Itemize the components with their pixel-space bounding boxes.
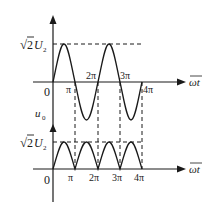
bottom-peak-label: √ 2 U 2 [20,135,47,152]
y-axis-arrow-bottom [50,124,57,132]
svg-text:ωt: ωt [189,76,201,88]
bottom-tick-2pi: 2π [89,172,99,183]
bottom-tick-3pi: 3π [112,172,122,183]
top-peak-label: √ 2 U 2 [20,37,47,54]
top-tick-2pi: 2π [86,70,96,81]
svg-text:ωt: ωt [189,163,201,175]
svg-text:2: 2 [43,46,47,54]
top-tick-3pi: 3π [120,70,130,81]
bottom-tick-4pi: 4π [134,172,144,183]
bottom-x-axis-arrow [177,166,186,173]
bottom-y-axis-label: u 0 [35,107,46,122]
y-axis-arrow-top [50,15,57,24]
svg-text:0: 0 [42,114,46,122]
rectifier-waveform-diagram: √ 2 U 2 0 π 2π 3π 4π ωt u 0 √ 2 U 2 0 π … [0,0,215,213]
svg-text:u: u [35,107,41,119]
svg-text:2: 2 [27,136,33,150]
top-x-axis-arrow [177,79,186,86]
top-origin-label: 0 [44,85,50,99]
svg-text:2: 2 [43,144,47,152]
top-x-axis-label: ωt [189,76,202,88]
top-tick-pi: π [66,84,71,95]
bottom-origin-label: 0 [44,173,50,187]
svg-text:2: 2 [27,38,33,52]
top-tick-4pi: 4π [143,84,153,95]
bottom-tick-pi: π [68,172,73,183]
bottom-x-axis-label: ωt [189,163,202,175]
